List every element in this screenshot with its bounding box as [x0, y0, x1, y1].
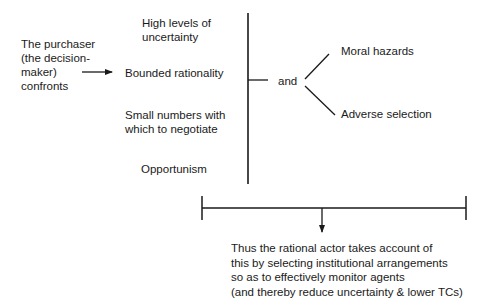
connector-and: and — [278, 74, 297, 88]
actor-line: (the decision- — [21, 51, 95, 65]
outcome-adverse-selection: Adverse selection — [341, 107, 432, 121]
actor-label: The purchaser (the decision- maker) conf… — [21, 37, 95, 93]
conclusion-text: Thus the rational actor takes account of… — [231, 241, 463, 299]
condition-line: uncertainty — [142, 30, 211, 44]
fork-to-adverse-selection — [305, 86, 335, 115]
conclusion-line: so as to effectively monitor agents — [231, 270, 463, 285]
actor-line: confronts — [21, 79, 95, 93]
condition-line: Small numbers with — [125, 108, 225, 122]
conclusion-line: (and thereby reduce uncertainty & lower … — [231, 285, 463, 300]
conclusion-line: this by selecting institutional arrangem… — [231, 256, 463, 271]
conclusion-line: Thus the rational actor takes account of — [231, 241, 463, 256]
condition-line: Opportunism — [141, 162, 207, 176]
actor-line: The purchaser — [21, 37, 95, 51]
condition-line: which to negotiate — [125, 122, 225, 136]
condition-line: Bounded rationality — [125, 66, 223, 80]
outcome-moral-hazards: Moral hazards — [341, 44, 414, 58]
condition-bounded-rationality: Bounded rationality — [125, 66, 223, 80]
condition-small-numbers: Small numbers with which to negotiate — [125, 108, 225, 136]
condition-uncertainty: High levels of uncertainty — [142, 16, 211, 44]
fork-to-moral-hazards — [305, 54, 329, 79]
condition-line: High levels of — [142, 16, 211, 30]
condition-opportunism: Opportunism — [141, 162, 207, 176]
actor-line: maker) — [21, 65, 95, 79]
